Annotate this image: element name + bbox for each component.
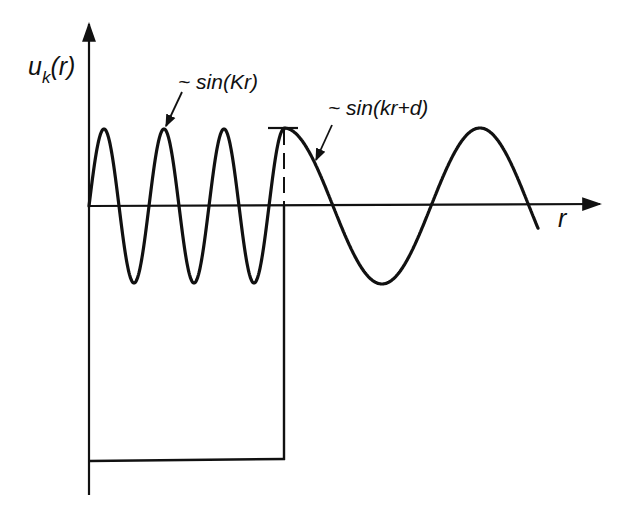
- y-axis-label: uk(r): [28, 52, 75, 81]
- x-axis-label: r: [558, 204, 566, 233]
- inner-annotation-arrow: [166, 92, 182, 126]
- y-axis-label-arg: (r): [50, 52, 75, 80]
- y-axis-label-subscript: k: [42, 68, 51, 87]
- outer-annotation-arrow: [316, 125, 332, 160]
- inner-wave-label: ~ sin(Kr): [178, 70, 258, 94]
- y-axis-label-main: u: [28, 52, 42, 80]
- wavefunction-diagram: [0, 0, 620, 510]
- outer-wave-label: ~ sin(kr+d): [328, 96, 428, 120]
- x-axis: [89, 204, 600, 206]
- well-bottom: [89, 459, 285, 461]
